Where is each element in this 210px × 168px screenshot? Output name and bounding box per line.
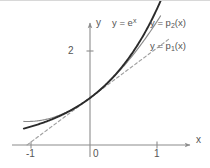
curve-exp-path	[24, 1, 161, 129]
curve-label-exp-exponent: x	[133, 17, 137, 24]
curve-p2	[24, 16, 161, 122]
curve-label-p1-prefix: y = p	[150, 40, 171, 51]
x-axis-label: x	[196, 135, 201, 145]
curve-label-p2-suffix: (x)	[175, 17, 186, 28]
y-tick-label-2: 2	[68, 46, 74, 56]
curve-exp	[24, 1, 161, 129]
curve-label-p1: y = p1(x)	[150, 41, 186, 52]
tick-marks	[31, 51, 157, 149]
x-tick-label-1: 1	[154, 149, 160, 159]
x-tick-label-minus-1: -1	[26, 149, 35, 159]
curve-label-p1-suffix: (x)	[175, 40, 186, 51]
curve-label-p2: y = p2(x)	[150, 18, 186, 29]
curve-label-exp-prefix: y = e	[112, 17, 133, 28]
plot-figure: y x 2 -1 0 1 y = ex y = p2(x) y = p1(x)	[0, 0, 210, 168]
curve-label-exp: y = ex	[112, 17, 136, 27]
curve-label-p2-prefix: y = p	[150, 17, 171, 28]
curve-p2-path	[24, 16, 161, 122]
x-tick-label-0: 0	[93, 149, 99, 159]
y-axis-label: y	[96, 18, 101, 28]
